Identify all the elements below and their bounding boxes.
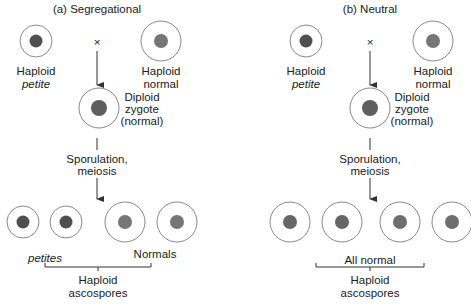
normals-group-label: Normals: [134, 248, 177, 260]
zygote-label-line2: zygote: [125, 103, 159, 115]
haploid-petite-label-line2: petite: [21, 78, 50, 90]
haploid-normal-label-line2: normal: [415, 78, 450, 90]
petite-nucleus-icon: [300, 35, 313, 48]
process-label-line2: meiosis: [351, 165, 390, 177]
zygote-label-line3: (normal): [121, 115, 164, 127]
cross-symbol: ×: [367, 36, 374, 48]
ascospore-normal: [322, 202, 362, 242]
normal-nucleus-icon: [118, 215, 132, 229]
haploid-normal-label-line2: normal: [143, 78, 178, 90]
ascospore-normal: [270, 202, 310, 242]
haploid-normal-cell: [141, 21, 181, 61]
process-label-line1: Sporulation,: [339, 153, 400, 165]
bracket-label-line1: Haploid: [351, 274, 390, 286]
zygote-label-line3: (normal): [391, 115, 434, 127]
petite-nucleus-icon: [60, 216, 73, 229]
zygote-nucleus-icon: [91, 100, 107, 116]
ascospore-normal: [105, 202, 145, 242]
process-label-line1: Sporulation,: [66, 153, 127, 165]
normal-nucleus-icon: [335, 215, 349, 229]
bracket-label-line2: ascospores: [69, 287, 128, 299]
petite-nucleus-icon: [30, 35, 43, 48]
normal-nucleus-icon: [393, 215, 407, 229]
petites-group-label: petites: [27, 252, 62, 264]
petite-cross-diagram: (a) Segregational Haploid petite × Haplo…: [0, 0, 471, 306]
ascospore-normal: [432, 202, 471, 242]
ascospore-petite: [50, 206, 82, 238]
ascospore-petite: [7, 206, 39, 238]
normal-nucleus-icon: [154, 34, 168, 48]
process-label-line2: meiosis: [78, 165, 117, 177]
cross-symbol: ×: [94, 36, 101, 48]
ascospore-normal: [380, 202, 420, 242]
haploid-petite-label-line1: Haploid: [17, 65, 56, 77]
normal-nucleus-icon: [283, 215, 297, 229]
zygote-label-line1: Diploid: [394, 91, 429, 103]
ascospore-normal: [157, 202, 197, 242]
haploid-petite-label-line2: petite: [291, 78, 320, 90]
zygote-nucleus-icon: [362, 100, 378, 116]
panel-a-title: (a) Segregational: [53, 3, 141, 15]
haploid-petite-cell: [290, 25, 322, 57]
panel-a-segregational: (a) Segregational Haploid petite × Haplo…: [7, 3, 197, 299]
haploid-normal-label-line1: Haploid: [142, 65, 181, 77]
haploid-petite-label-line1: Haploid: [287, 65, 326, 77]
haploid-petite-cell: [20, 25, 52, 57]
haploid-normal-label-line1: Haploid: [414, 65, 453, 77]
haploid-normal-cell: [413, 21, 453, 61]
bracket-label-line1: Haploid: [79, 274, 118, 286]
ascospore-bracket: [45, 263, 151, 271]
normal-nucleus-icon: [426, 34, 440, 48]
normal-nucleus-icon: [170, 215, 184, 229]
diploid-zygote-cell: [350, 88, 390, 128]
all-normal-group-label: All normal: [344, 254, 395, 266]
panel-b-neutral: (b) Neutral Haploid petite × Haploid nor…: [270, 3, 471, 299]
zygote-label-line1: Diploid: [124, 91, 159, 103]
petite-nucleus-icon: [17, 216, 30, 229]
normal-nucleus-icon: [445, 215, 459, 229]
zygote-label-line2: zygote: [395, 103, 429, 115]
diploid-zygote-cell: [79, 88, 119, 128]
panel-b-title: (b) Neutral: [343, 3, 397, 15]
bracket-label-line2: ascospores: [341, 287, 400, 299]
